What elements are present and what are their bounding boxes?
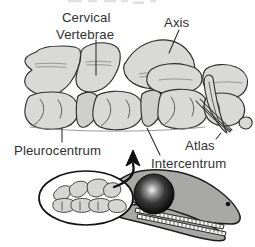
leader-atlas xyxy=(216,133,221,139)
eye-sphere xyxy=(134,174,174,214)
label-atlas: Atlas xyxy=(185,138,215,153)
nostril xyxy=(226,202,231,207)
inset-oval xyxy=(39,171,133,225)
vertebra-2 xyxy=(76,43,120,92)
label-cervical-line2: Vertebrae xyxy=(56,27,114,42)
label-axis: Axis xyxy=(164,15,190,30)
cropped-text-remnant xyxy=(68,0,156,4)
anatomical-figure: Cervical Vertebrae Axis Pleurocentrum At… xyxy=(0,0,255,247)
label-cervical-line1: Cervical xyxy=(62,10,110,25)
vertebral-column xyxy=(25,40,252,133)
label-intercentrum: Intercentrum xyxy=(151,156,226,171)
leader-intercentrum xyxy=(147,128,160,155)
centrum-2 xyxy=(93,91,143,130)
centrum-nub xyxy=(239,117,252,129)
centrum-1 xyxy=(25,92,78,129)
vertebra-1 xyxy=(25,46,81,95)
label-pleurocentrum: Pleurocentrum xyxy=(14,143,101,158)
centrum-3 xyxy=(158,89,208,129)
diagram-canvas: Cervical Vertebrae Axis Pleurocentrum At… xyxy=(0,0,255,247)
